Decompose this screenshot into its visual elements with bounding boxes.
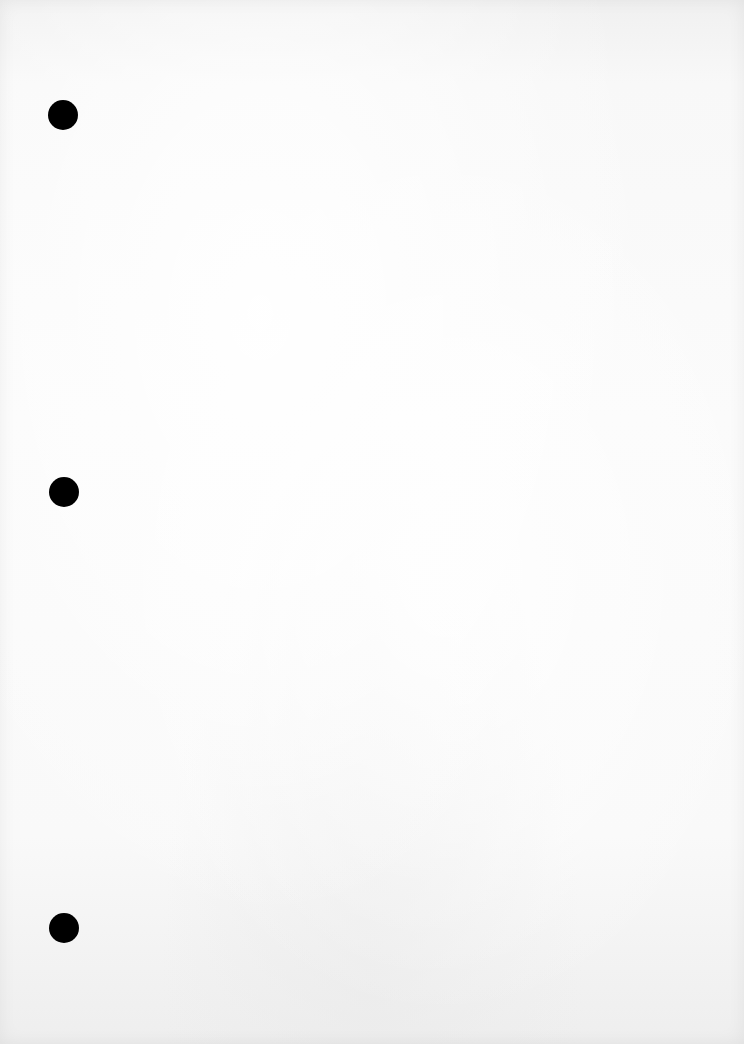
punch-hole-middle [49, 477, 79, 507]
punch-hole-bottom [49, 913, 79, 943]
paper-sheet [0, 0, 744, 1044]
punch-hole-top [48, 100, 78, 130]
